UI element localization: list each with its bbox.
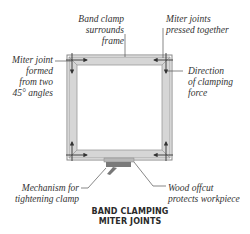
label-line: from two — [0, 77, 53, 88]
label-line: Miter joints — [166, 14, 250, 25]
label-line: protects workpiece — [168, 194, 250, 205]
label-band-clamp: Band clamp surrounds frame — [62, 14, 124, 47]
label-direction: Direction of clamping force — [188, 66, 250, 99]
label-line: Direction — [188, 66, 250, 77]
label-line: Wood offcut — [168, 183, 250, 194]
clamp-mechanism — [106, 162, 131, 167]
label-line: Miter joint — [0, 55, 53, 66]
label-line: 45° angles — [0, 88, 53, 99]
label-line: Mechanism for — [0, 183, 79, 194]
diagram-title: BAND CLAMPING MITER JOINTS — [70, 207, 190, 227]
title-line: MITER JOINTS — [70, 217, 190, 227]
picture-frame — [69, 57, 170, 158]
label-line: formed — [0, 66, 53, 77]
label-miter-pressed: Miter joints pressed together — [166, 14, 250, 36]
label-line: tightening clamp — [0, 194, 79, 205]
label-line: surrounds frame — [62, 25, 124, 47]
label-line: of clamping — [188, 77, 250, 88]
band-clamp — [67, 55, 172, 160]
label-line: force — [188, 88, 250, 99]
leader-offcut — [134, 162, 166, 186]
clamp-handle — [107, 167, 117, 175]
label-miter-formed: Miter joint formed from two 45° angles — [0, 55, 53, 99]
wood-offcut — [104, 158, 134, 162]
label-mechanism: Mechanism for tightening clamp — [0, 183, 79, 205]
title-line: BAND CLAMPING — [70, 207, 190, 217]
leader-mechanism — [81, 168, 106, 188]
label-line: pressed together — [166, 25, 250, 36]
label-line: Band clamp — [62, 14, 124, 25]
label-offcut: Wood offcut protects workpiece — [168, 183, 250, 205]
